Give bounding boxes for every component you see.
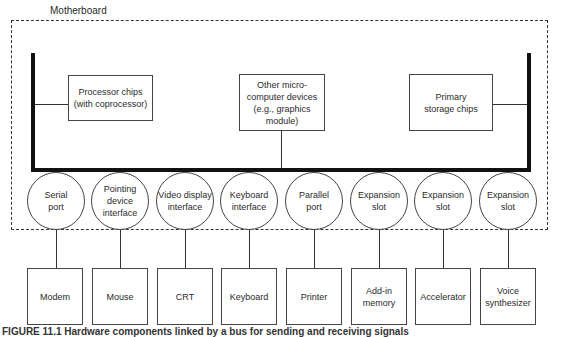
accelerator-label: Accelerator xyxy=(420,291,466,303)
pointing-device-interface-label: Pointing device interface xyxy=(103,183,138,219)
primary-storage-box: Primary storage chips xyxy=(409,74,493,131)
connector-port-4 xyxy=(249,230,250,268)
motherboard-label: Motherboard xyxy=(50,5,107,16)
expansion-slot-3-label: Expansion slot xyxy=(487,189,529,213)
video-display-interface-label: Video display interface xyxy=(158,189,211,213)
parallel-port-circle: Parallel port xyxy=(285,172,343,230)
serial-port-label: Serial port xyxy=(44,189,67,213)
processor-chips-box: Processor chips (with coprocessor) xyxy=(68,75,153,121)
add-in-memory-label: Add-in memory xyxy=(363,285,396,309)
bus-horizontal xyxy=(31,168,531,172)
crt-box: CRT xyxy=(157,268,213,325)
printer-box: Printer xyxy=(286,268,342,325)
figure-caption: FIGURE 11.1 Hardware components linked b… xyxy=(2,326,409,337)
parallel-port-label: Parallel port xyxy=(299,189,329,213)
keyboard-interface-label: Keyboard interface xyxy=(230,189,269,213)
expansion-slot-2-circle: Expansion slot xyxy=(414,172,472,230)
keyboard-interface-circle: Keyboard interface xyxy=(220,172,278,230)
connector-port-7 xyxy=(443,230,444,268)
expansion-slot-3-circle: Expansion slot xyxy=(479,172,537,230)
processor-chips-label: Processor chips (with coprocessor) xyxy=(74,86,148,110)
mouse-label: Mouse xyxy=(106,291,133,303)
mouse-box: Mouse xyxy=(92,268,148,325)
video-display-interface-circle: Video display interface xyxy=(156,172,214,230)
voice-synthesizer-label: Voice synthesizer xyxy=(485,285,531,309)
connector-storage xyxy=(493,104,527,105)
other-devices-box: Other micro- computer devices (e.g., gra… xyxy=(239,74,325,131)
connector-port-3 xyxy=(185,230,186,268)
primary-storage-label: Primary storage chips xyxy=(424,91,478,115)
connector-port-1 xyxy=(56,230,57,268)
connector-processor xyxy=(35,104,68,105)
modem-label: Modem xyxy=(40,291,70,303)
add-in-memory-box: Add-in memory xyxy=(351,268,407,325)
connector-port-6 xyxy=(379,230,380,268)
voice-synthesizer-box: Voice synthesizer xyxy=(480,268,536,325)
printer-label: Printer xyxy=(301,291,328,303)
expansion-slot-1-label: Expansion slot xyxy=(358,189,400,213)
bus-right-vertical xyxy=(527,53,531,172)
accelerator-box: Accelerator xyxy=(415,268,471,325)
expansion-slot-1-circle: Expansion slot xyxy=(350,172,408,230)
crt-label: CRT xyxy=(176,291,194,303)
connector-other-devices xyxy=(281,131,282,168)
keyboard-box: Keyboard xyxy=(221,268,277,325)
pointing-device-interface-circle: Pointing device interface xyxy=(91,172,149,230)
keyboard-label: Keyboard xyxy=(230,291,269,303)
serial-port-circle: Serial port xyxy=(27,172,85,230)
connector-port-5 xyxy=(314,230,315,268)
other-devices-label: Other micro- computer devices (e.g., gra… xyxy=(240,79,324,127)
expansion-slot-2-label: Expansion slot xyxy=(422,189,464,213)
connector-port-8 xyxy=(508,230,509,268)
bus-left-vertical xyxy=(31,53,35,172)
connector-port-2 xyxy=(120,230,121,268)
modem-box: Modem xyxy=(27,268,83,325)
